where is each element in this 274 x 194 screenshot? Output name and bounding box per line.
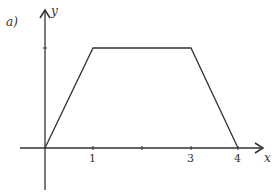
trapezoid-line — [45, 48, 238, 148]
trapezoid-graph: a) y x 1 3 4 — [0, 0, 274, 194]
x-tick-label-3: 3 — [187, 152, 194, 165]
x-tick-label-4: 4 — [234, 152, 241, 165]
x-tick-label-1: 1 — [89, 152, 96, 165]
y-axis-label: y — [50, 4, 58, 18]
figure-label: a) — [6, 15, 18, 29]
x-axis-label: x — [264, 151, 271, 165]
